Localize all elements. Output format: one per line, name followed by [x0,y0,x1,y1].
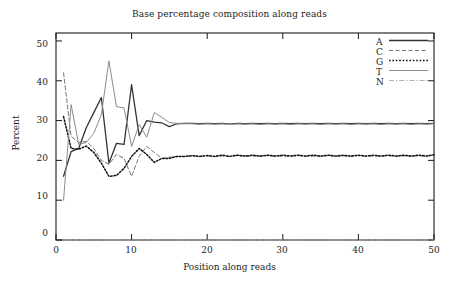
series-line-g [64,117,434,177]
plot-frame [56,33,434,240]
chart-figure: Base percentage composition along reads … [0,0,459,288]
plot-area [0,0,459,288]
data-series-group [64,61,434,240]
axis-ticks [56,33,434,240]
series-line-a [64,85,434,177]
series-line-t [64,61,434,200]
legend-line-samples [389,41,428,81]
